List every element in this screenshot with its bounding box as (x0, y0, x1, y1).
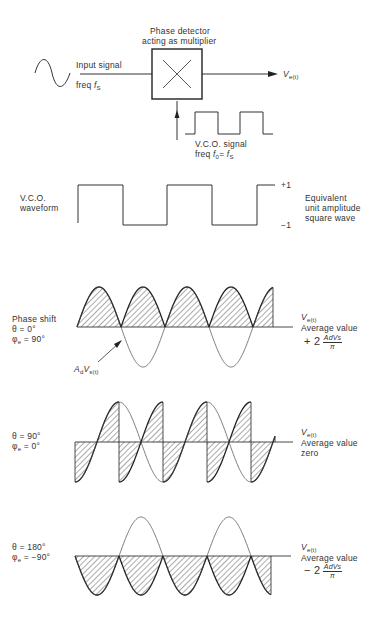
panel2-phi: φe = 0° (12, 441, 40, 454)
vco-freq-label: freq f0= fS (195, 149, 234, 162)
annotation-sub2: s(t) (89, 369, 98, 375)
input-freq-label: freq fS (76, 80, 101, 93)
output-sub: e(t) (289, 74, 299, 80)
equivalent-desc-line2: unit amplitude (305, 203, 361, 213)
diagram-canvas: Phase detector acting as multiplier Inpu… (0, 0, 385, 628)
input-amplitude-annotation: AdVs(t) (74, 364, 99, 377)
panel2-theta: θ = 90° (12, 431, 41, 441)
panel2-phi-value: = 0° (21, 441, 40, 451)
panel-theta-0-graph (77, 287, 293, 367)
panel3-avg-den: π (323, 572, 343, 580)
panel-theta-180-graph (75, 517, 291, 595)
multiply-x-icon (163, 60, 191, 88)
panel1-avg-num: AdVs (323, 334, 343, 343)
panel2-average-label: Average value (301, 438, 358, 448)
panel1-phi-value: = 90° (21, 334, 45, 344)
vco-waveform-label-line2: waveform (20, 203, 58, 213)
detector-label-line1: Phase detector (150, 26, 210, 36)
panel1-average-label: Average value (301, 323, 358, 333)
vco-feed-arrow-icon (175, 110, 180, 118)
diagram-svg (0, 0, 385, 628)
panel2-average-value: zero (301, 448, 318, 458)
minus-one-level: −1 (281, 220, 291, 230)
panel1-avg-sign: + 2 (304, 335, 320, 347)
vco-signal-label: V.C.O. signal (195, 139, 247, 149)
vco-freq-sub2: S (229, 154, 233, 160)
vco-freq-prefix: freq (195, 149, 213, 159)
panel3-avg-sign: − 2 (304, 564, 320, 576)
detector-label-line2: acting as multiplier (142, 36, 216, 46)
equivalent-desc-line3: square wave (305, 213, 355, 223)
panel1-avg-den: π (323, 343, 343, 351)
panel1-phi: φe = 90° (12, 334, 45, 347)
panel3-avg-fraction: AdVsπ (323, 563, 343, 580)
panel3-phi: φe = −90° (12, 552, 50, 565)
input-freq-sub: S (97, 85, 101, 91)
panel-theta-90-graph (75, 402, 293, 482)
panel1-average-value: + 2 AdVsπ (304, 334, 342, 351)
output-ve-label: Ve(t) (283, 69, 299, 82)
panel3-average-label: Average value (301, 553, 358, 563)
input-sine-icon (35, 60, 70, 87)
panel3-average-value: − 2 AdVsπ (304, 563, 342, 580)
panel1-avg-fraction: AdVsπ (323, 334, 343, 351)
vco-freq-eq: = (219, 149, 227, 159)
phase-shift-title: Phase shift (12, 314, 56, 324)
vco-waveform-label-line1: V.C.O. (20, 193, 46, 203)
vco-square-wave (78, 185, 275, 225)
output-arrow-icon (268, 71, 278, 77)
panel3-phi-value: = −90° (21, 552, 50, 562)
vco-signal-wave (185, 112, 273, 134)
panel3-theta: θ = 180° (12, 542, 46, 552)
input-freq-prefix: freq (76, 80, 94, 90)
panel3-avg-num: AdVs (323, 563, 343, 572)
panel1-theta: θ = 0° (12, 324, 36, 334)
equivalent-desc-line1: Equivalent (305, 193, 347, 203)
input-signal-label: Input signal (76, 60, 122, 70)
plus-one-level: +1 (281, 180, 291, 190)
